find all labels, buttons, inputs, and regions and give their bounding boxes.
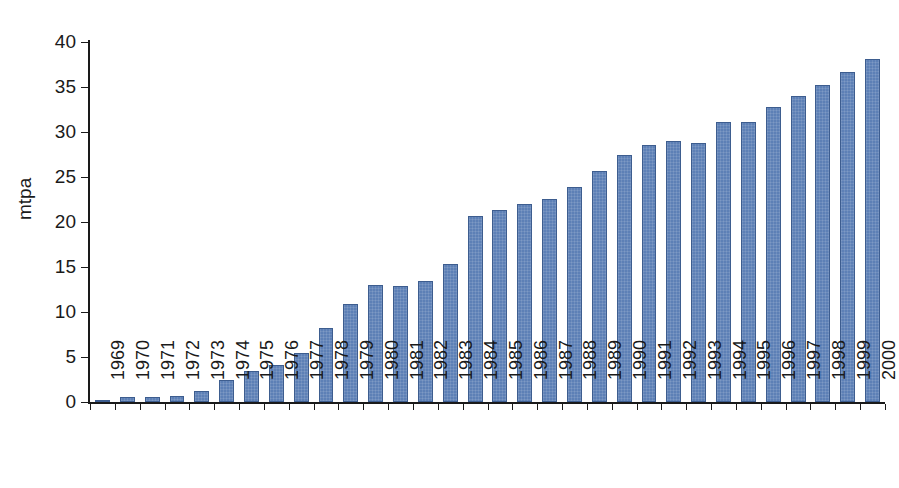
y-axis-tick: [81, 132, 88, 133]
y-axis-tick: [81, 312, 88, 313]
y-axis-tick-label: 40: [36, 32, 76, 51]
y-axis-tick-label: 15: [36, 257, 76, 276]
x-axis-tick-label: 1987: [557, 340, 575, 410]
x-axis-tick-label: 1982: [432, 340, 450, 410]
x-axis-tick-label: 1979: [358, 340, 376, 410]
x-axis-tick-label: 1977: [308, 340, 326, 410]
x-axis-tick-label: 1969: [109, 340, 127, 410]
y-axis-tick: [81, 267, 88, 268]
y-axis-tick-label: 30: [36, 122, 76, 141]
x-axis-tick-label: 1994: [731, 340, 749, 410]
x-axis-tick-label: 1971: [159, 340, 177, 410]
y-axis-tick: [81, 87, 88, 88]
y-axis-tick-label: 0: [36, 392, 76, 411]
x-axis-tick-label: 1984: [482, 340, 500, 410]
x-axis-tick-label: 1992: [681, 340, 699, 410]
x-axis-tick-label: 1972: [184, 340, 202, 410]
y-axis-tick-label: 10: [36, 302, 76, 321]
y-axis-title: mtpa: [14, 130, 36, 220]
x-axis-tick-label: 1988: [581, 340, 599, 410]
x-axis-tick-label: 1974: [234, 340, 252, 410]
y-axis-tick: [81, 177, 88, 178]
x-axis-tick-label: 1986: [532, 340, 550, 410]
x-axis-tick-label: 1980: [383, 340, 401, 410]
y-axis-tick: [81, 402, 88, 403]
x-axis-tick-label: 1991: [656, 340, 674, 410]
x-axis-tick-label: 2000: [880, 340, 898, 410]
x-axis-tick-label: 1973: [209, 340, 227, 410]
x-axis-tick-label: 1990: [631, 340, 649, 410]
x-axis-tick-label: 1978: [333, 340, 351, 410]
y-axis-tick-label: 20: [36, 212, 76, 231]
y-axis-tick-label: 35: [36, 77, 76, 96]
x-axis-tick-label: 1981: [408, 340, 426, 410]
y-axis-tick-label: 25: [36, 167, 76, 186]
x-axis-tick-label: 1989: [606, 340, 624, 410]
y-axis-tick: [81, 222, 88, 223]
x-axis-tick-label: 1970: [134, 340, 152, 410]
x-axis-tick-label: 1993: [706, 340, 724, 410]
bar: [95, 400, 110, 402]
x-axis-tick-label: 1985: [507, 340, 525, 410]
x-axis-tick-label: 1976: [283, 340, 301, 410]
y-axis-tick: [81, 42, 88, 43]
x-axis-tick-label: 1998: [830, 340, 848, 410]
x-axis-tick-label: 1997: [805, 340, 823, 410]
x-axis-tick-label: 1983: [457, 340, 475, 410]
x-axis-labels: 1969197019711972197319741975197619771978…: [90, 410, 885, 488]
x-axis-tick-label: 1999: [855, 340, 873, 410]
y-axis-tick-label: 5: [36, 347, 76, 366]
x-axis-tick-label: 1995: [755, 340, 773, 410]
x-axis-tick-label: 1996: [780, 340, 798, 410]
x-axis-tick-label: 1975: [258, 340, 276, 410]
y-axis-tick: [81, 357, 88, 358]
